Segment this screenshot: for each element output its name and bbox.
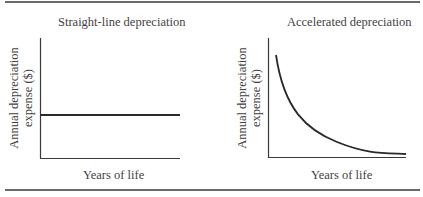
accelerated-x-axis-label: Years of life bbox=[311, 168, 372, 183]
straight-line-panel: Straight-line depreciation Annual deprec… bbox=[0, 0, 212, 197]
accelerated-curve-series bbox=[276, 55, 406, 154]
bottom-rule bbox=[5, 189, 420, 191]
accelerated-panel: Accelerated depreciation Annual deprecia… bbox=[212, 0, 423, 197]
straight-line-x-axis-label: Years of life bbox=[83, 168, 144, 183]
